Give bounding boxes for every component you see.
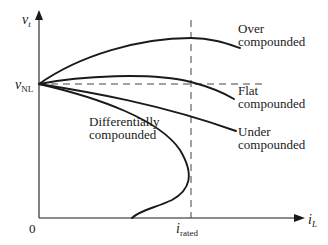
no-load-voltage-label: vNL [15,77,33,94]
svg-text:compounded: compounded [238,34,306,49]
differentially-compounded-curve [39,84,189,218]
flat-compounded-curve [39,76,234,99]
svg-text:compounded: compounded [238,137,306,152]
origin-label: 0 [29,221,36,236]
compound-generator-characteristics-diagram: vt iL 0 vNL irated Over compounded Flat … [0,0,328,245]
differentially-compounded-label: Differentially compounded [89,114,160,142]
flat-compounded-label: Flat compounded [238,83,306,111]
over-compounded-label: Over compounded [238,21,306,49]
svg-text:compounded: compounded [89,127,157,142]
y-axis-label: vt [22,12,31,29]
under-compounded-label: Under compounded [238,124,306,152]
svg-text:compounded: compounded [238,96,306,111]
y-axis-arrow-icon [35,10,43,20]
x-axis-arrow-icon [294,214,305,222]
x-axis-label: iL [308,212,317,229]
rated-current-label: irated [176,221,198,238]
